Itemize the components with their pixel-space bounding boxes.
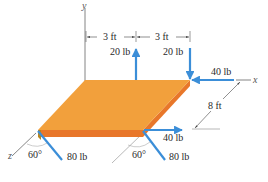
- force-label-40lb-front: 40 lb: [163, 133, 183, 143]
- force-label-40lb-back: 40 lb: [211, 67, 231, 77]
- force-label-80lb-right: 80 lb: [169, 152, 189, 162]
- angle-label-left: 60°: [28, 150, 42, 160]
- dim-depth-a: [223, 82, 240, 99]
- angle-arc-left: [27, 143, 47, 146]
- dim-label-depth: 8 ft: [208, 101, 222, 111]
- dim-depth-b: [195, 111, 211, 128]
- force-label-20lb-up: 20 lb: [110, 47, 130, 57]
- dim-label-right: 3 ft: [155, 32, 169, 42]
- force-label-20lb-down: 20 lb: [163, 47, 183, 57]
- x-axis-label: x: [253, 75, 257, 85]
- y-axis-label: y: [82, 1, 86, 11]
- force-arrow-80lb-right: [143, 131, 165, 160]
- plate-force-diagram: y x z 3 ft 3 ft 8 ft 20 lb 20 lb 40 lb 4…: [0, 0, 268, 182]
- force-label-80lb-left: 80 lb: [67, 152, 87, 162]
- angle-label-right: 60°: [132, 150, 146, 160]
- dim-label-left: 3 ft: [103, 32, 117, 42]
- plate-front-side: [38, 130, 143, 137]
- z-axis-label: z: [8, 151, 12, 161]
